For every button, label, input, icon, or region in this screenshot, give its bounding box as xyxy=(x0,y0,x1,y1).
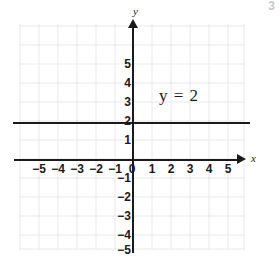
x-tick-label: −4 xyxy=(49,162,67,176)
x-tick-label: 1 xyxy=(143,162,161,176)
y-tick-label: 4 xyxy=(115,76,131,90)
x-tick-label: 5 xyxy=(219,162,237,176)
x-tick-label: −2 xyxy=(87,162,105,176)
x-tick-label: −5 xyxy=(30,162,48,176)
coordinate-plane: x y 0 −5 −4 −3 −2 −1 1 2 3 4 5 5 4 3 2 1… xyxy=(19,24,245,250)
y-tick-label: 1 xyxy=(115,133,131,147)
graph-figure: 3 xyxy=(0,0,280,263)
y-tick-label: 5 xyxy=(115,57,131,71)
y-axis-label: y xyxy=(133,5,138,17)
x-axis-arrow-icon xyxy=(237,154,246,164)
y-tick-label: −4 xyxy=(115,228,131,242)
y-tick-label: −3 xyxy=(115,209,131,223)
equation-annotation: y = 2 xyxy=(159,86,199,106)
x-tick-label: 4 xyxy=(200,162,218,176)
y-tick-label: −1 xyxy=(115,171,131,185)
y-axis-arrow-icon xyxy=(128,19,138,28)
x-tick-label: 3 xyxy=(181,162,199,176)
y-tick-label: 2 xyxy=(115,114,131,128)
x-axis-label: x xyxy=(251,152,256,164)
y-tick-label: −5 xyxy=(115,243,131,257)
plotted-line-y-equals-2 xyxy=(13,122,250,124)
x-tick-label: 2 xyxy=(162,162,180,176)
x-tick-label: −3 xyxy=(68,162,86,176)
y-axis xyxy=(132,21,134,253)
corner-page-mark: 3 xyxy=(268,2,275,11)
y-tick-label: 3 xyxy=(115,95,131,109)
y-tick-label: −2 xyxy=(115,190,131,204)
x-axis xyxy=(14,159,240,161)
